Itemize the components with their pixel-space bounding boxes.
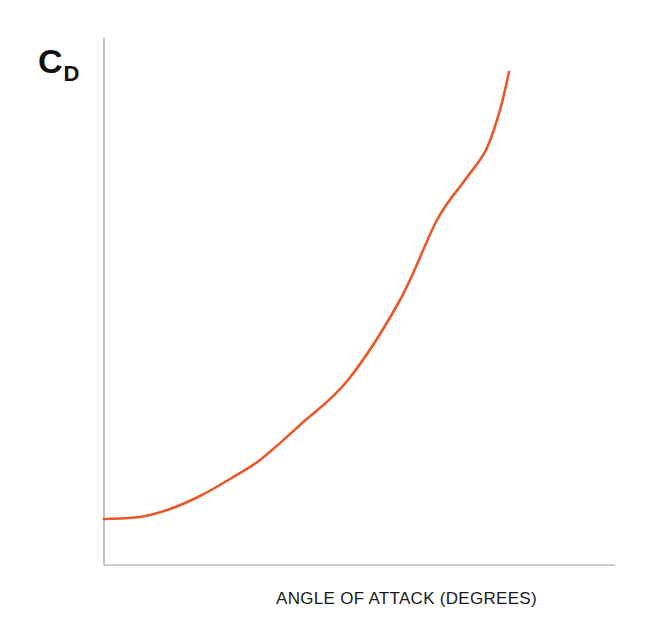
drag-curve	[104, 72, 509, 519]
chart-plot-area	[0, 0, 656, 630]
x-axis-label: ANGLE OF ATTACK (DEGREES)	[276, 589, 537, 609]
